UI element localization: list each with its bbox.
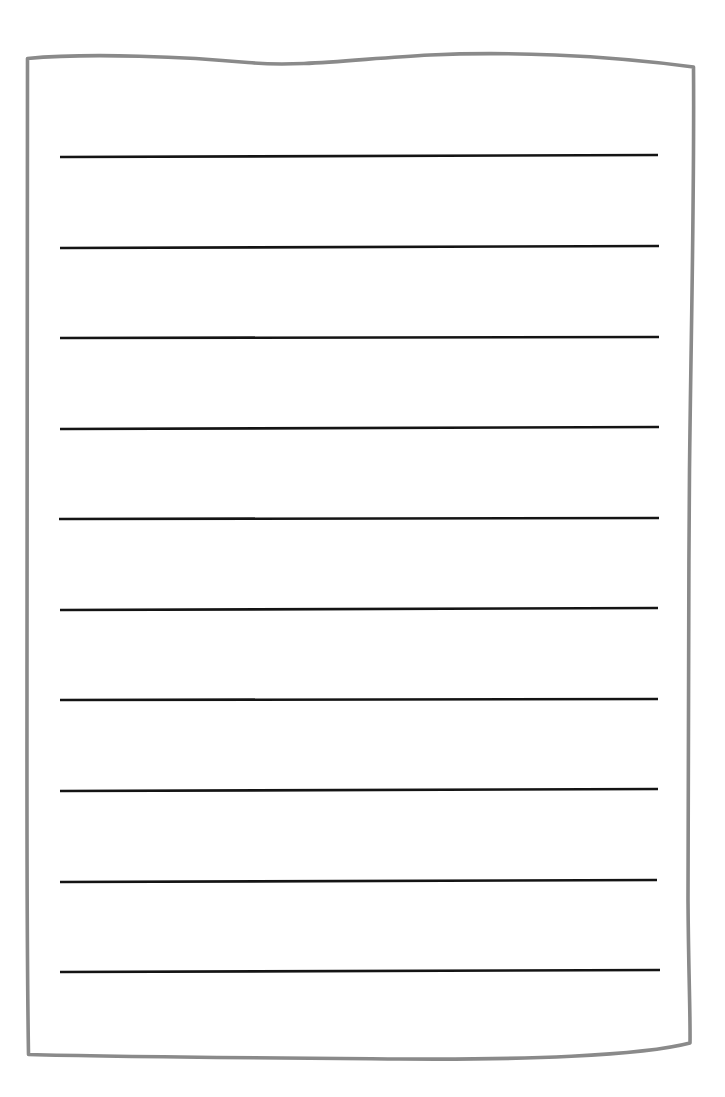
worksheet-page	[0, 0, 725, 1097]
paper-sheet-outline	[27, 54, 694, 1060]
writing-line-3[interactable]	[60, 337, 659, 338]
writing-line-7[interactable]	[60, 699, 658, 700]
writing-line-5[interactable]	[59, 518, 659, 519]
paper-canvas	[0, 0, 725, 1097]
